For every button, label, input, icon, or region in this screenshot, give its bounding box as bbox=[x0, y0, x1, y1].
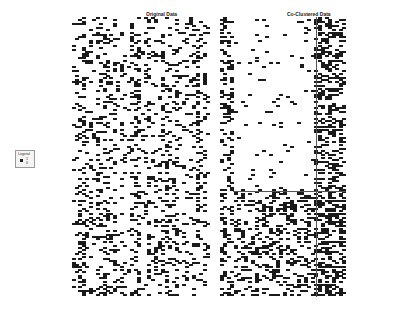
legend-title: Legend bbox=[18, 152, 30, 156]
legend-swatch bbox=[20, 159, 23, 162]
col-split-line bbox=[316, 17, 317, 297]
original-data-matrix bbox=[72, 17, 210, 297]
co-clustered-data-matrix bbox=[220, 17, 346, 297]
legend: Legend 1 0 bbox=[15, 150, 35, 168]
legend-zero: 0 bbox=[26, 161, 28, 165]
row-split-line bbox=[233, 191, 346, 192]
